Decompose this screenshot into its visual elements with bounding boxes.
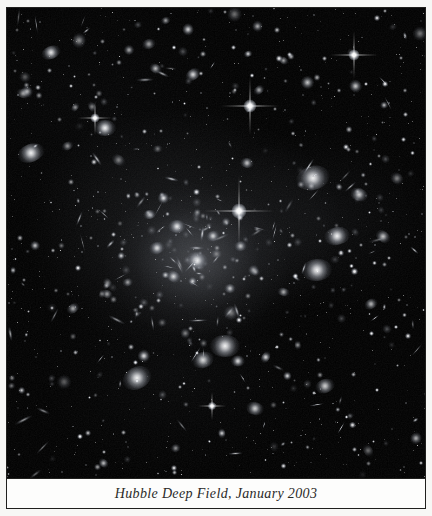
faint-background-object <box>346 46 356 58</box>
galaxy <box>323 225 352 247</box>
diffraction-spike-vertical <box>212 392 213 420</box>
faint-star <box>350 308 351 309</box>
star <box>119 56 120 57</box>
faint-background-object <box>353 195 359 204</box>
star <box>231 89 237 95</box>
faint-star <box>21 243 22 244</box>
faint-star <box>153 394 154 395</box>
faint-star <box>320 303 321 304</box>
star <box>388 102 390 104</box>
faint-star <box>279 41 280 42</box>
star <box>340 251 341 252</box>
faint-star <box>101 8 102 9</box>
star <box>92 83 97 88</box>
star <box>357 454 359 456</box>
faint-star <box>51 121 52 122</box>
faint-star <box>259 354 260 355</box>
edge-on-galaxy <box>96 354 104 363</box>
faint-star <box>114 113 115 114</box>
star <box>250 350 251 351</box>
faint-star <box>108 134 109 135</box>
star <box>77 445 78 446</box>
star <box>327 193 328 194</box>
faint-star <box>306 384 307 385</box>
faint-star <box>202 177 203 178</box>
star <box>281 463 287 469</box>
faint-background-object <box>345 412 352 420</box>
star <box>392 211 394 213</box>
faint-star <box>129 409 130 410</box>
edge-on-galaxy <box>134 191 141 198</box>
galaxy <box>72 32 87 49</box>
faint-star <box>352 234 353 235</box>
faint-background-object <box>242 236 250 245</box>
faint-background-object <box>133 21 143 29</box>
faint-star <box>41 81 42 82</box>
edge-on-galaxy <box>384 96 393 111</box>
edge-on-galaxy <box>227 140 233 148</box>
faint-star <box>338 257 339 258</box>
faint-star <box>259 354 260 355</box>
galaxy <box>94 120 116 136</box>
faint-star <box>391 15 392 16</box>
faint-star <box>99 64 100 65</box>
star <box>324 202 327 205</box>
star <box>396 54 397 55</box>
faint-star <box>384 439 385 440</box>
faint-star <box>350 313 351 314</box>
star <box>300 315 302 317</box>
faint-background-object <box>184 255 191 265</box>
edge-on-galaxy <box>271 223 278 240</box>
faint-star <box>168 401 169 402</box>
star <box>408 233 410 235</box>
star <box>355 149 359 153</box>
faint-star <box>388 297 389 298</box>
star <box>95 474 97 476</box>
faint-background-object <box>24 249 30 255</box>
star <box>319 418 320 419</box>
star <box>277 259 279 261</box>
faint-star <box>90 371 91 372</box>
faint-star <box>271 279 272 280</box>
star <box>103 218 106 221</box>
edge-on-galaxy <box>370 314 380 322</box>
faint-star <box>284 259 285 260</box>
faint-star <box>408 123 409 124</box>
galaxy <box>193 208 201 217</box>
star <box>272 453 274 455</box>
star <box>200 92 202 94</box>
faint-background-object <box>387 22 398 32</box>
star <box>391 428 393 430</box>
faint-star <box>15 55 16 56</box>
star <box>366 461 372 467</box>
diffraction-spike-horizontal <box>198 406 226 407</box>
faint-star <box>31 133 32 134</box>
faint-star <box>331 58 332 59</box>
edge-on-galaxy <box>184 259 197 273</box>
star <box>181 474 182 475</box>
faint-star <box>44 288 45 289</box>
star <box>246 386 250 390</box>
star <box>396 364 399 367</box>
faint-background-object <box>191 214 201 224</box>
star <box>322 56 327 61</box>
star <box>121 430 126 435</box>
star <box>324 357 326 359</box>
faint-star <box>49 200 50 201</box>
star <box>7 466 9 469</box>
galaxy <box>144 192 149 198</box>
star <box>200 213 206 219</box>
faint-star <box>288 462 289 463</box>
faint-star <box>49 56 50 57</box>
star-core <box>244 100 257 113</box>
faint-star <box>179 228 180 229</box>
faint-background-object <box>262 147 269 155</box>
faint-star <box>306 334 307 335</box>
faint-background-object <box>181 230 191 239</box>
star <box>353 46 354 47</box>
star <box>313 14 314 15</box>
galaxy <box>182 401 189 407</box>
faint-star <box>190 212 191 213</box>
faint-star <box>299 66 300 67</box>
faint-star <box>420 69 421 70</box>
